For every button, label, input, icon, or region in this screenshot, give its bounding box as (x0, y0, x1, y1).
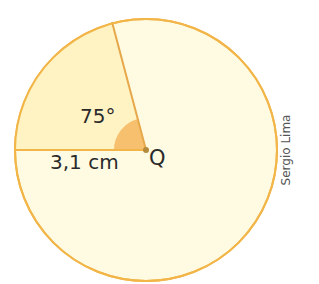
circle-diagram (0, 0, 319, 284)
image-credit: Sergio Lima (279, 115, 293, 186)
radius-label: 3,1 cm (50, 150, 119, 174)
angle-label: 75° (80, 104, 115, 128)
center-point-label: Q (149, 146, 166, 170)
